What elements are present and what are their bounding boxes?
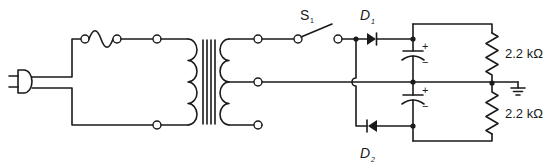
primary-terminal-bottom xyxy=(153,121,161,129)
schematic-svg: S 1 D 1 D 2 + − + − 2.2 kΩ 2 xyxy=(0,0,556,164)
resistor-2-label: 2.2 kΩ xyxy=(505,106,543,121)
mains-wire-neutral xyxy=(32,88,153,125)
diode-d2-label: D xyxy=(360,145,370,161)
ground-icon xyxy=(511,82,525,95)
capacitor-1-plus: + xyxy=(422,40,428,52)
secondary-winding xyxy=(220,39,229,125)
capacitor-2-minus: − xyxy=(422,100,428,112)
bottom-rail xyxy=(413,134,492,141)
secondary-terminal-center xyxy=(254,78,262,86)
ac-plug-icon xyxy=(9,70,32,93)
primary-winding xyxy=(188,39,197,125)
diode-d1-icon xyxy=(367,33,377,45)
diode-d1-label-sub: 1 xyxy=(371,18,375,25)
mains-wire-line xyxy=(32,39,81,77)
top-rail xyxy=(413,24,492,33)
junction-dot xyxy=(489,80,494,85)
capacitor-2-plus: + xyxy=(422,84,428,96)
junction-dot xyxy=(410,123,415,128)
diode-d2-icon xyxy=(367,120,377,132)
resistor-1-label: 2.2 kΩ xyxy=(505,46,543,61)
switch-label: S xyxy=(300,7,309,23)
junction-dot xyxy=(410,36,415,41)
capacitor-1-minus: − xyxy=(422,56,428,68)
resistor-1-icon xyxy=(486,33,498,83)
diode-d2-label-sub: 2 xyxy=(370,156,375,163)
junction-dot xyxy=(410,79,415,84)
circuit-diagram: S 1 D 1 D 2 + − + − 2.2 kΩ 2 xyxy=(0,0,556,164)
fuse-icon xyxy=(81,31,121,48)
primary-terminal-top xyxy=(153,35,161,43)
switch-icon xyxy=(294,24,342,43)
secondary-terminal-bottom xyxy=(254,121,262,129)
resistor-2-icon xyxy=(486,83,498,134)
diode-d1-label: D xyxy=(360,7,370,23)
secondary-terminal-top xyxy=(254,35,262,43)
switch-label-sub: 1 xyxy=(310,17,314,24)
transformer-icon xyxy=(188,39,229,125)
